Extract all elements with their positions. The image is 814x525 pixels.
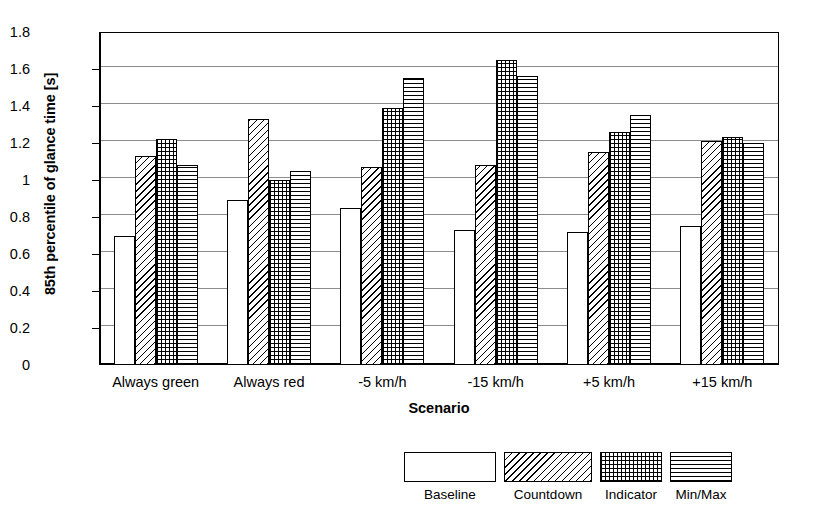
x-tick-label: +5 km/h [583, 374, 635, 390]
bar [248, 119, 269, 365]
y-tick-mark [92, 254, 99, 255]
bar [361, 167, 382, 365]
y-tick-mark [92, 217, 99, 218]
y-tick-mark [92, 143, 99, 144]
bar-group [326, 32, 439, 365]
y-tick-label: 0 [0, 358, 30, 373]
bar [609, 132, 630, 365]
bar [290, 171, 311, 365]
bar [177, 165, 198, 365]
bar-group [666, 32, 779, 365]
legend-label: Indicator [600, 487, 662, 502]
y-tick-mark [92, 69, 99, 70]
bar [588, 152, 609, 365]
bar [114, 236, 135, 366]
bar [475, 165, 496, 365]
bar [743, 143, 764, 365]
legend-label: Min/Max [670, 487, 732, 502]
legend-label: Countdown [504, 487, 592, 502]
bar [701, 141, 722, 365]
y-tick-label: 0.8 [0, 210, 30, 225]
x-axis-title: Scenario [99, 400, 779, 416]
y-tick-mark [92, 180, 99, 181]
legend-item: Baseline [404, 452, 496, 502]
y-tick-label: 1.6 [0, 62, 30, 77]
legend-item: Indicator [600, 452, 662, 502]
bar-group [439, 32, 552, 365]
y-tick-label: 0.4 [0, 284, 30, 299]
y-tick-label: 1 [0, 173, 30, 188]
bar [269, 180, 290, 365]
chart-legend: BaselineCountdownIndicatorMin/Max [404, 452, 746, 512]
legend-item: Countdown [504, 452, 592, 502]
x-tick-label: -5 km/h [358, 374, 406, 390]
legend-label: Baseline [404, 487, 496, 502]
bar [722, 137, 743, 365]
bar [630, 115, 651, 365]
x-tick-label: +15 km/h [692, 374, 752, 390]
y-tick-mark [92, 328, 99, 329]
bar [454, 230, 475, 365]
bar-group [99, 32, 212, 365]
x-tick-label: Always green [112, 374, 199, 390]
bar [496, 60, 517, 365]
bars-layer [99, 32, 779, 365]
bar [156, 139, 177, 365]
y-tick-label: 1.2 [0, 136, 30, 151]
y-tick-label: 1.4 [0, 99, 30, 114]
x-tick-label: Always red [234, 374, 305, 390]
legend-swatch [600, 452, 662, 482]
bar [517, 76, 538, 365]
bar [403, 78, 424, 365]
y-tick-label: 0.6 [0, 247, 30, 262]
bar [567, 232, 588, 365]
bar [135, 156, 156, 365]
legend-swatch [670, 452, 732, 482]
legend-item: Min/Max [670, 452, 732, 502]
y-axis-title: 85th percentile of glance time [s] [42, 4, 58, 364]
y-tick-label: 1.8 [0, 25, 30, 40]
legend-swatch [504, 452, 592, 482]
bar-chart: 85th percentile of glance time [s] 00.20… [0, 0, 814, 525]
y-tick-mark [92, 291, 99, 292]
bar-group [552, 32, 665, 365]
bar [227, 200, 248, 365]
bar [680, 226, 701, 365]
x-tick-label: -15 km/h [467, 374, 523, 390]
legend-swatch [404, 452, 496, 482]
bar [340, 208, 361, 365]
y-tick-label: 0.2 [0, 321, 30, 336]
bar-group [212, 32, 325, 365]
y-tick-mark [92, 106, 99, 107]
bar [382, 108, 403, 365]
